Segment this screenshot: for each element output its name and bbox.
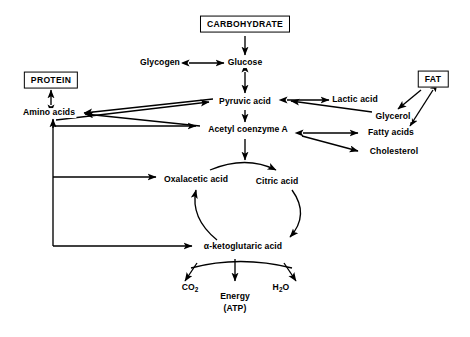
edge-oxalacetic-to-citric <box>210 163 276 171</box>
node-h2o: H2O <box>271 283 291 293</box>
edge-citric-to-ketoglutaric <box>290 190 301 237</box>
edge-acetyl-coa-to-cholesterol <box>302 136 358 151</box>
node-fat: FAT <box>418 71 449 88</box>
node-acetyl-coenzyme-a: Acetyl coenzyme A <box>207 125 290 135</box>
diagram-connectors <box>0 0 470 337</box>
node-carbohydrate: CARBOHYDRATE <box>200 16 290 33</box>
edge-pyruvic-to-amino-acids <box>84 99 213 113</box>
edge-fat-to-glycerol <box>398 90 421 109</box>
node-fatty-acids: Fatty acids <box>367 128 416 138</box>
edge-cycle-to-h2o <box>284 263 296 281</box>
co2-subscript: 2 <box>195 286 199 293</box>
atp-label: (ATP) <box>220 303 250 315</box>
node-cholesterol: Cholesterol <box>368 147 419 157</box>
node-co2: CO2 <box>180 283 200 293</box>
node-glucose: Glucose <box>226 58 264 68</box>
node-amino-acids: Amino acids <box>21 108 76 118</box>
node-glycerol: Glycerol <box>374 112 412 122</box>
node-energy-atp: Energy (ATP) <box>219 291 252 314</box>
metabolism-diagram: CARBOHYDRATE Glucose Glycogen Pyruvic ac… <box>0 0 470 337</box>
energy-label: Energy <box>220 291 250 303</box>
edge-cycle-to-co2 <box>185 263 197 281</box>
h2o-subscript: 2 <box>279 286 283 293</box>
h2o-formula-base: H <box>273 282 279 292</box>
node-lactic-acid: Lactic acid <box>331 95 380 105</box>
edge-ketoglutaric-to-oxalacetic <box>195 190 217 240</box>
node-oxalacetic-acid: Oxalacetic acid <box>162 175 229 185</box>
node-protein: PROTEIN <box>24 72 78 89</box>
edge-acetyl-coa-to-amino-acids <box>85 114 200 126</box>
node-citric-acid: Citric acid <box>254 177 300 187</box>
edge-cycle-fanout-arc <box>191 262 292 269</box>
node-glycogen: Glycogen <box>139 58 182 68</box>
co2-formula-base: CO <box>182 282 195 292</box>
node-alpha-ketoglutaric-acid: α-ketoglutaric acid <box>202 242 283 252</box>
node-pyruvic-acid: Pyruvic acid <box>218 97 273 107</box>
edge-amino-acids-to-pyruvic <box>56 102 209 120</box>
h2o-formula-tail: O <box>283 282 290 292</box>
